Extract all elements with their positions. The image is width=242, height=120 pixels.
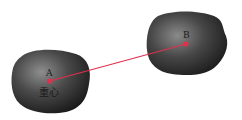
- label-a: A: [45, 68, 53, 78]
- label-center-of-mass: 重心: [39, 86, 59, 98]
- center-point-a: [47, 78, 52, 83]
- center-point-b: [183, 41, 188, 46]
- label-b: B: [183, 30, 190, 40]
- diagram-canvas: A 重心 B: [0, 0, 242, 120]
